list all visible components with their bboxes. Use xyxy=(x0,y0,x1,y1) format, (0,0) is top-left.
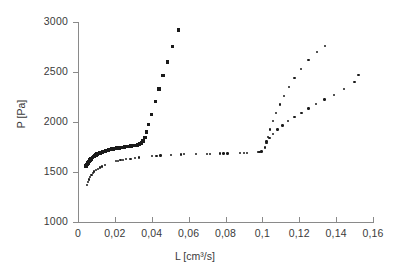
data-point xyxy=(324,45,326,47)
data-point xyxy=(113,147,117,151)
data-point xyxy=(125,158,127,160)
data-point xyxy=(154,100,158,104)
data-point xyxy=(88,178,90,180)
data-point xyxy=(265,142,267,144)
data-point xyxy=(86,161,90,165)
data-point xyxy=(276,128,278,130)
data-point xyxy=(281,124,283,126)
data-point xyxy=(138,142,142,146)
data-point xyxy=(226,152,228,154)
y-tick-mark xyxy=(73,172,79,173)
data-point xyxy=(134,157,136,159)
data-point xyxy=(119,146,123,150)
data-point xyxy=(288,86,290,88)
data-point xyxy=(107,148,111,152)
data-point xyxy=(300,112,302,114)
y-axis-title: P [Pa] xyxy=(15,84,27,144)
data-point xyxy=(141,139,145,143)
data-point xyxy=(92,172,94,174)
y-tick-label: 1500 xyxy=(26,166,68,177)
x-tick-mark xyxy=(189,217,190,223)
data-point xyxy=(117,160,119,162)
data-point xyxy=(90,174,92,176)
data-point xyxy=(94,153,98,157)
x-tick-mark xyxy=(226,217,227,223)
data-point xyxy=(86,184,88,186)
data-point xyxy=(92,155,96,159)
data-point xyxy=(115,146,119,150)
data-point xyxy=(177,28,181,32)
data-point xyxy=(85,163,89,167)
data-point xyxy=(283,95,285,97)
data-point xyxy=(138,156,140,158)
data-point xyxy=(93,170,95,172)
data-point xyxy=(239,152,241,154)
y-tick-mark xyxy=(73,22,79,23)
data-point xyxy=(300,68,302,70)
data-point xyxy=(95,169,97,171)
data-point xyxy=(101,165,103,167)
data-point xyxy=(104,164,106,166)
data-point xyxy=(159,154,161,156)
data-point xyxy=(125,145,129,149)
data-point xyxy=(112,147,116,151)
data-point xyxy=(117,146,121,150)
data-point xyxy=(275,112,277,114)
data-point xyxy=(147,123,151,127)
data-point xyxy=(260,150,262,152)
data-point xyxy=(206,153,208,155)
data-point xyxy=(101,150,105,154)
y-tick-mark xyxy=(73,122,79,123)
x-axis-title: L [cm³/s] xyxy=(175,250,295,262)
data-point xyxy=(98,151,102,155)
data-point xyxy=(264,146,266,148)
x-tick-mark xyxy=(299,217,300,223)
data-point xyxy=(222,152,224,154)
data-point xyxy=(272,120,274,122)
data-point xyxy=(88,158,92,162)
data-point xyxy=(315,103,317,105)
data-point xyxy=(93,154,97,158)
data-point xyxy=(115,160,117,162)
data-point xyxy=(357,74,359,76)
y-tick-mark xyxy=(73,72,79,73)
data-point xyxy=(136,143,140,147)
data-point xyxy=(99,151,103,155)
data-point xyxy=(129,158,131,160)
x-tick-mark xyxy=(115,217,116,223)
data-point xyxy=(269,128,271,130)
data-point xyxy=(119,159,121,161)
data-point xyxy=(257,151,259,153)
data-point xyxy=(246,152,248,154)
data-point xyxy=(140,141,144,145)
data-point xyxy=(104,149,108,153)
data-point xyxy=(108,148,112,152)
data-point xyxy=(122,159,124,161)
x-tick-label: 0,16 xyxy=(351,228,395,239)
x-tick-mark xyxy=(152,217,153,223)
data-point xyxy=(170,154,172,156)
data-point xyxy=(95,152,99,156)
data-point xyxy=(180,153,182,155)
data-point xyxy=(151,155,153,157)
data-point xyxy=(121,146,125,150)
data-point xyxy=(129,144,133,148)
data-point xyxy=(293,116,295,118)
data-point xyxy=(333,94,335,96)
data-point xyxy=(265,140,267,142)
data-point xyxy=(166,60,170,64)
data-point xyxy=(133,144,137,148)
data-point xyxy=(91,156,95,160)
data-point xyxy=(316,51,318,53)
data-point xyxy=(243,152,245,154)
data-point xyxy=(127,145,131,149)
data-point xyxy=(89,176,91,178)
y-tick-label: 2000 xyxy=(26,116,68,127)
data-point xyxy=(183,153,185,155)
data-point xyxy=(155,155,157,157)
data-point xyxy=(267,136,269,138)
data-point xyxy=(110,147,114,151)
x-tick-mark xyxy=(78,217,79,223)
data-point xyxy=(307,107,309,109)
data-point xyxy=(97,168,99,170)
